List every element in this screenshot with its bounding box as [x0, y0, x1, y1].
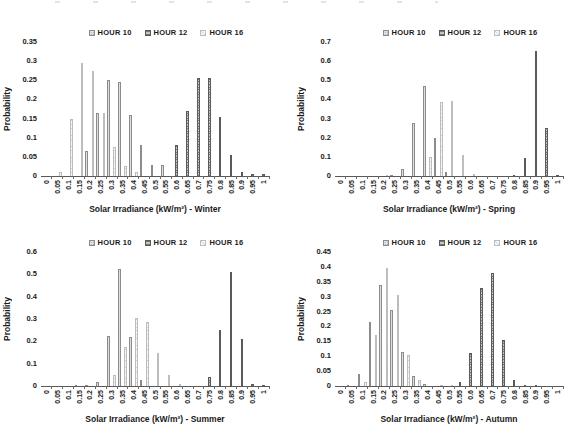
- y-tick-0.3: 0.3: [27, 56, 37, 65]
- x-tick-0.4: 0.4: [422, 386, 433, 413]
- x-tick-0.6: 0.6: [465, 176, 476, 203]
- bar-group-0.8: [509, 252, 520, 386]
- bar-group-0.3: [106, 42, 117, 176]
- x-tick-0: 0: [41, 176, 52, 203]
- bar-hour16-x0.45: [146, 322, 149, 386]
- bar-group-0.05: [52, 252, 63, 386]
- legend-item-hour12: HOUR 12: [439, 28, 482, 37]
- x-tick-0.2: 0.2: [84, 386, 95, 413]
- bar-group-0: [335, 252, 346, 386]
- y-tick-0.35: 0.35: [316, 277, 331, 286]
- y-tick-0: 0: [327, 171, 331, 180]
- bar-group-0.1: [357, 42, 368, 176]
- y-tick-0.4: 0.4: [27, 292, 37, 301]
- legend-label-hour10: HOUR 10: [392, 238, 426, 247]
- x-axis-labels-autumn: 00.050.10.150.20.250.30.350.40.450.50.55…: [335, 386, 563, 413]
- bar-hour10-x0.45: [140, 145, 143, 176]
- bar-hour16-x0.1: [70, 119, 73, 176]
- x-tick-0: 0: [41, 386, 52, 413]
- bar-group-0.65: [476, 252, 487, 386]
- x-tick-0.8: 0.8: [509, 386, 520, 413]
- bar-hour16-x0.55: [168, 375, 171, 386]
- bar-hour12-x0.8: [219, 117, 222, 176]
- bar-group-0.85: [226, 42, 237, 176]
- x-tick-0.95: 0.95: [541, 176, 552, 203]
- bar-group-0.75: [204, 252, 215, 386]
- x-tick-0.2: 0.2: [378, 386, 389, 413]
- x-tick-0.75: 0.75: [498, 176, 509, 203]
- bar-group-0.15: [368, 252, 379, 386]
- x-tick-0: 0: [335, 176, 346, 203]
- x-tick-0.55: 0.55: [160, 176, 171, 203]
- bar-hour16-x0.3: [407, 355, 410, 386]
- bar-group-0.7: [193, 252, 204, 386]
- bar-group-0.6: [465, 252, 476, 386]
- x-tick-0.95: 0.95: [541, 386, 552, 413]
- bar-group-0.6: [465, 42, 476, 176]
- x-tick-0.5: 0.5: [150, 176, 161, 203]
- bar-group-0.65: [182, 252, 193, 386]
- bar-hour10-x0.4: [129, 115, 132, 176]
- bar-group-1: [552, 252, 563, 386]
- bar-group-0.7: [487, 252, 498, 386]
- bar-group-0.25: [389, 252, 400, 386]
- legend-item-hour12: HOUR 12: [439, 238, 482, 247]
- bar-hour16-x0.15: [375, 335, 378, 386]
- bar-group-0.6: [171, 252, 182, 386]
- x-tick-0.85: 0.85: [226, 176, 237, 203]
- bar-hour12-x0.9: [241, 339, 244, 386]
- legend-item-hour10: HOUR 10: [89, 28, 132, 37]
- x-axis-title-winter: Solar Irradiance (kW/m²) - Winter: [41, 204, 269, 214]
- x-tick-0.75: 0.75: [498, 386, 509, 413]
- bar-group-1: [552, 42, 563, 176]
- plot-area-spring: [335, 42, 563, 176]
- x-tick-0.7: 0.7: [193, 386, 204, 413]
- legend-winter: HOUR 10 HOUR 12 HOUR 16: [44, 27, 288, 38]
- legend-item-hour12: HOUR 12: [145, 238, 188, 247]
- y-tick-0.15: 0.15: [316, 336, 331, 345]
- bar-hour16-x0.45: [440, 102, 443, 176]
- x-tick-0.65: 0.65: [476, 176, 487, 203]
- x-tick-0.1: 0.1: [357, 176, 368, 203]
- y-tick-0.7: 0.7: [321, 37, 331, 46]
- legend-label-hour16: HOUR 16: [209, 238, 243, 247]
- bar-group-0.7: [487, 42, 498, 176]
- y-tick-0.35: 0.35: [22, 37, 37, 46]
- x-tick-0.1: 0.1: [63, 386, 74, 413]
- y-tick-0.2: 0.2: [321, 133, 331, 142]
- bar-hour12-x0.75: [502, 340, 505, 386]
- bar-group-0.4: [422, 252, 433, 386]
- bar-hour16-x0.4: [429, 157, 432, 176]
- x-tick-0.95: 0.95: [247, 386, 258, 413]
- bar-hour10-x0.2: [85, 151, 88, 176]
- bar-hour12-x0.65: [186, 111, 189, 176]
- bar-group-0.95: [247, 252, 258, 386]
- x-axis-labels-summer: 00.050.10.150.20.250.30.350.40.450.50.55…: [41, 386, 269, 413]
- bar-hour10-x0.35: [118, 269, 121, 386]
- bar-hour10-x0.25: [96, 113, 99, 176]
- bar-hour12-x0.7: [491, 273, 494, 386]
- x-tick-0.1: 0.1: [63, 176, 74, 203]
- x-tick-0.2: 0.2: [378, 176, 389, 203]
- legend-label-hour10: HOUR 10: [98, 28, 132, 37]
- y-axis-ticks-autumn: 00.050.10.150.20.250.30.350.40.45: [308, 252, 335, 386]
- x-tick-0.5: 0.5: [444, 176, 455, 203]
- bar-hour16-x0.2: [92, 71, 95, 176]
- y-tick-0.25: 0.25: [316, 307, 331, 316]
- bar-group-0.85: [226, 252, 237, 386]
- legend-item-hour12: HOUR 12: [145, 28, 188, 37]
- x-tick-0.9: 0.9: [236, 176, 247, 203]
- x-tick-0.05: 0.05: [346, 176, 357, 203]
- x-tick-0.1: 0.1: [357, 386, 368, 413]
- x-tick-0.35: 0.35: [411, 176, 422, 203]
- bar-group-0.25: [389, 42, 400, 176]
- x-tick-0.35: 0.35: [117, 176, 128, 203]
- bar-hour12-x0.9: [535, 51, 538, 176]
- y-tick-0.05: 0.05: [22, 152, 37, 161]
- bar-hour16-x0.2: [386, 268, 389, 386]
- x-tick-1: 1: [552, 386, 563, 413]
- bar-hour16-x0.4: [135, 318, 138, 386]
- legend-swatch-hour12-icon: [439, 30, 445, 36]
- x-tick-0.6: 0.6: [171, 176, 182, 203]
- bar-hour16-x0.5: [451, 101, 454, 176]
